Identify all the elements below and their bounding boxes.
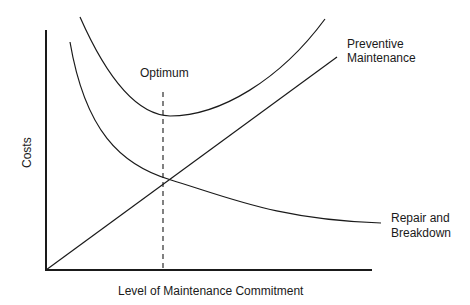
repair-label-line2: Breakdown [391, 226, 451, 241]
x-axis-label: Level of Maintenance Commitment [118, 284, 303, 299]
preventive-label-line1: Preventive [347, 37, 404, 52]
total-cost-curve [80, 17, 325, 116]
preventive-label-line2: Maintenance [347, 51, 416, 66]
repair-label-line1: Repair and [391, 211, 450, 226]
preventive-maintenance-line [46, 57, 337, 270]
repair-breakdown-curve [70, 42, 381, 223]
optimum-label: Optimum [140, 66, 189, 81]
y-axis-label: Costs [20, 137, 34, 168]
